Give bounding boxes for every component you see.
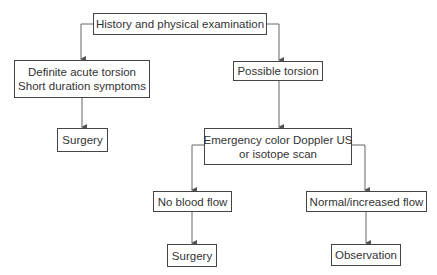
node-normal-flow: Normal/increased flow [306,191,427,212]
node-label: Possible torsion [237,64,318,78]
node-emergency-doppler: Emergency color Doppler US or isotope sc… [204,128,352,165]
node-label-line1: Emergency color Doppler US [204,133,353,147]
node-observation: Observation [331,244,401,266]
node-definite-torsion: Definite acute torsion Short duration sy… [14,60,150,98]
node-label-line1: Definite acute torsion [28,65,136,79]
node-history: History and physical examination [93,13,267,35]
node-possible-torsion: Possible torsion [233,61,323,81]
node-label: No blood flow [158,195,228,209]
node-label-line2: or isotope scan [239,147,317,161]
node-label: Surgery [172,249,212,263]
node-label: Surgery [62,133,102,147]
node-no-blood-flow: No blood flow [153,191,232,212]
node-label: History and physical examination [96,17,264,31]
node-label-line2: Short duration symptoms [18,79,146,93]
node-surgery-left: Surgery [57,128,108,152]
node-label: Normal/increased flow [310,195,424,209]
node-label: Observation [335,248,397,262]
node-surgery-bottom: Surgery [167,244,217,267]
